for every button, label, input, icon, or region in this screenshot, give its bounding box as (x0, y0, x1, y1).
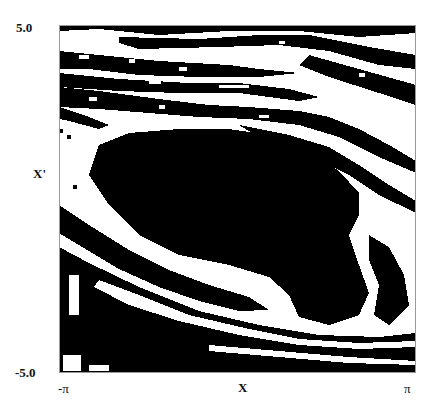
y-axis-label: X' (33, 166, 46, 182)
x-axis-label: X (238, 380, 247, 396)
x-min-tick: -π (58, 381, 69, 397)
x-max-tick: π (404, 381, 411, 397)
y-min-tick: -5.0 (15, 365, 36, 381)
y-max-tick: 5.0 (16, 20, 32, 36)
basin-map (59, 25, 416, 373)
basin-plot (59, 25, 416, 373)
